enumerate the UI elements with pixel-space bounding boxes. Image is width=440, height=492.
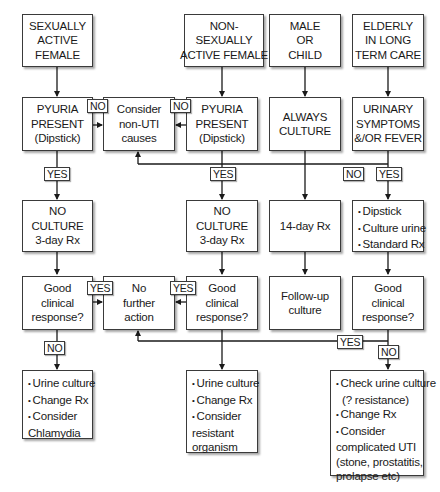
no-label: NO — [378, 345, 399, 359]
no-label: NO — [44, 341, 65, 355]
box-text: NO — [214, 204, 231, 219]
bullet-text: Culture urine — [358, 221, 426, 238]
box-text: (? resistance) — [336, 393, 409, 408]
box-text: CHILD — [288, 48, 322, 63]
yes-label: YES — [87, 281, 113, 295]
box-text: TERM CARE — [355, 48, 421, 63]
box-text: further — [123, 296, 155, 311]
pyuria-present-box-2: PYURIA PRESENT (Dipstick) — [186, 97, 258, 151]
box-text: Chlamydia — [28, 426, 81, 441]
box-text: &/OR FEVER — [354, 131, 422, 146]
non-sexually-active-female-box: NON- SEXUALLY ACTIVE FEMALE — [184, 14, 264, 67]
box-text: causes — [121, 131, 156, 146]
box-text: response? — [196, 310, 248, 325]
bullet-text: Consider — [192, 409, 241, 426]
box-text: response? — [32, 310, 84, 325]
outcome-box-1: Urine culture Change Rx Consider Chlamyd… — [22, 370, 93, 439]
bullet-text: Change Rx — [28, 393, 88, 410]
box-text: complicated UTI — [336, 440, 416, 455]
box-text: Good — [374, 281, 401, 296]
sexually-active-female-box: SEXUALLY ACTIVE FEMALE — [22, 14, 93, 67]
box-text: FEMALE — [35, 48, 80, 63]
box-text: ACTIVE FEMALE — [180, 48, 268, 63]
no-label: NO — [170, 99, 191, 113]
box-text: 3-day Rx — [200, 233, 244, 248]
good-clinical-response-box-3: Good clinical response? — [352, 276, 424, 330]
box-text: 3-day Rx — [35, 233, 79, 248]
box-text: 14-day Rx — [280, 219, 331, 234]
box-text: No — [132, 281, 146, 296]
always-culture-box: ALWAYS CULTURE — [269, 97, 341, 151]
bullet-text: Change Rx — [192, 393, 252, 410]
box-text: (Dipstick) — [199, 131, 245, 146]
box-text: SEXUALLY — [196, 33, 253, 48]
no-culture-box-1: NO CULTURE 3-day Rx — [22, 200, 93, 252]
male-or-child-box: MALE OR CHILD — [269, 14, 341, 67]
box-text: response? — [362, 310, 414, 325]
elderly-long-term-care-box: ELDERLY IN LONG TERM CARE — [352, 14, 424, 67]
bullet-text: Urine culture — [28, 376, 95, 393]
bullet-text: Consider — [336, 424, 385, 441]
fourteen-day-rx-box: 14-day Rx — [269, 200, 341, 252]
box-text: IN LONG — [365, 33, 411, 48]
box-text: clinical — [206, 296, 239, 311]
box-text: ALWAYS — [283, 110, 328, 125]
box-text: Good — [208, 281, 235, 296]
box-text: OR — [297, 33, 314, 48]
box-text: NO — [49, 204, 66, 219]
box-text: PYURIA — [37, 102, 79, 117]
bullet-text: Urine culture — [192, 376, 259, 393]
box-text: ELDERLY — [363, 19, 413, 34]
good-clinical-response-box-1: Good clinical response? — [22, 276, 93, 330]
bullet-text: Dipstick — [358, 204, 401, 221]
box-text: Good — [44, 281, 71, 296]
outcome-box-3: Check urine culture (? resistance) Chang… — [330, 370, 424, 476]
box-text: (stone, prostatitis, — [336, 455, 423, 470]
yes-label: YES — [210, 167, 236, 181]
bullet-text: Standard Rx — [358, 237, 424, 254]
box-text: clinical — [41, 296, 74, 311]
box-text: Follow-up — [281, 289, 329, 304]
consider-non-uti-box: Consider non-UTI causes — [103, 97, 175, 151]
box-text: PRESENT — [196, 117, 249, 132]
no-label: NO — [343, 167, 364, 181]
box-text: SYMPTOMS — [356, 117, 420, 132]
box-text: culture — [288, 303, 321, 318]
yes-label: YES — [170, 281, 196, 295]
good-clinical-response-box-2: Good clinical response? — [186, 276, 258, 330]
follow-up-culture-box: Follow-up culture — [269, 276, 341, 330]
yes-label: YES — [44, 167, 70, 181]
box-text: PRESENT — [31, 117, 84, 132]
pyuria-present-box-1: PYURIA PRESENT (Dipstick) — [22, 97, 93, 151]
box-text: clinical — [372, 296, 405, 311]
box-text: resistant — [192, 426, 234, 441]
box-text: (Dipstick) — [35, 131, 81, 146]
box-text: SEXUALLY — [29, 19, 86, 34]
yes-label: YES — [337, 335, 363, 349]
box-text: CULTURE — [279, 124, 331, 139]
box-text: non-UTI — [119, 117, 159, 132]
box-text: URINARY — [363, 102, 413, 117]
box-text: CULTURE — [196, 219, 248, 234]
box-text: action — [124, 310, 154, 325]
box-text: PYURIA — [201, 102, 243, 117]
box-text: MALE — [290, 19, 321, 34]
bullet-text: Consider — [28, 409, 77, 426]
box-text: Consider — [117, 102, 161, 117]
yes-label: YES — [376, 167, 402, 181]
box-text: organism — [192, 440, 238, 455]
urinary-symptoms-box: URINARY SYMPTOMS &/OR FEVER — [352, 97, 424, 151]
no-label: NO — [87, 99, 108, 113]
no-culture-box-2: NO CULTURE 3-day Rx — [186, 200, 258, 252]
bullet-text: Change Rx — [336, 407, 396, 424]
outcome-box-2: Urine culture Change Rx Consider resista… — [186, 370, 258, 453]
box-text: prolapse etc) — [336, 469, 400, 484]
box-text: CULTURE — [31, 219, 83, 234]
dipstick-culture-box: Dipstick Culture urine Standard Rx — [352, 200, 424, 252]
box-text: ACTIVE — [37, 33, 77, 48]
bullet-text: Check urine culture — [336, 376, 436, 393]
box-text: NON- — [210, 19, 239, 34]
no-further-action-box: No further action — [103, 276, 175, 330]
